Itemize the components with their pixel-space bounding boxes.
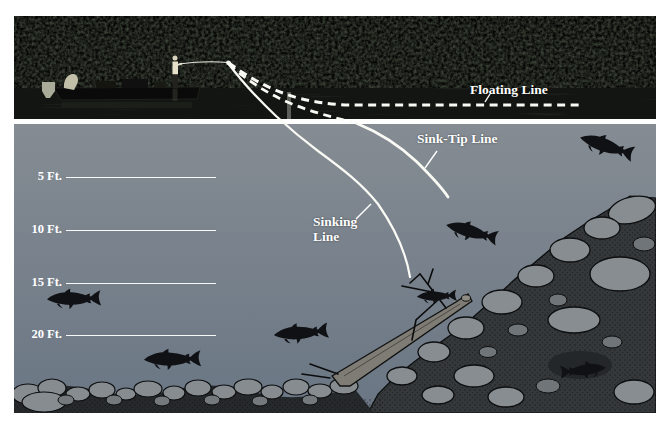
sinking-label-word2: Line	[313, 229, 357, 244]
rod-tip-flash	[226, 60, 231, 65]
fly-line-diagram: Floating Line	[0, 0, 672, 424]
fish-icon	[143, 347, 201, 371]
sink-tip-line-label: Sink-Tip Line	[417, 131, 497, 147]
rocks-bottom	[14, 378, 384, 413]
depth-label: 15 Ft.	[14, 275, 62, 289]
fish-icon	[273, 319, 329, 346]
depth-line	[66, 177, 216, 179]
boat-silhouette	[54, 87, 200, 100]
fish-icon	[46, 287, 101, 310]
rock-slope	[368, 192, 656, 413]
underwater-illustration: 5 Ft. 10 Ft. 15 Ft. 20 Ft. Sink-Tip Line…	[14, 124, 656, 413]
boat-gear	[154, 82, 166, 88]
foliage-highlights	[14, 16, 656, 86]
bright-reflection-streak	[287, 92, 291, 119]
underwater-art	[14, 124, 656, 413]
depth-label: 5 Ft.	[14, 169, 62, 183]
boat-reflection	[62, 102, 192, 108]
depth-label: 10 Ft.	[14, 222, 62, 236]
sinking-label-word1: Sinking	[313, 214, 357, 229]
surface-photo-art	[14, 16, 656, 119]
surface-photo: Floating Line	[14, 16, 656, 119]
sinking-line-label: Sinking Line	[313, 214, 357, 244]
boat-gear	[96, 81, 116, 88]
depth-line	[66, 283, 216, 285]
depth-line	[66, 230, 216, 232]
depth-label: 20 Ft.	[14, 327, 62, 341]
depth-line	[66, 335, 216, 337]
fish-icon	[444, 216, 500, 247]
floating-line-label: Floating Line	[470, 82, 548, 98]
fish-icon	[577, 128, 636, 163]
boat-gear	[122, 79, 148, 88]
